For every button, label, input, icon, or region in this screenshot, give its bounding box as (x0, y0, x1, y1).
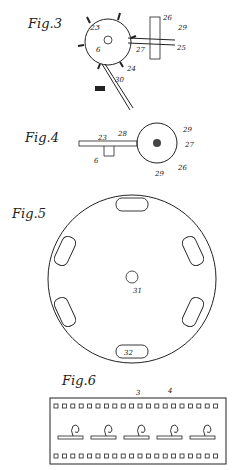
svg-text:24: 24 (126, 65, 136, 73)
fig6-title: Fig.6 (61, 373, 96, 388)
svg-text:27: 27 (184, 141, 194, 149)
svg-text:25: 25 (176, 44, 186, 52)
svg-text:6: 6 (96, 46, 101, 54)
svg-text:6: 6 (94, 157, 99, 165)
svg-text:32: 32 (124, 349, 133, 357)
figure-6: Fig.6 3 4 (50, 373, 226, 464)
fig4-title: Fig.4 (24, 130, 59, 145)
svg-text:23: 23 (89, 23, 100, 32)
svg-text:26: 26 (162, 14, 172, 22)
svg-text:29: 29 (154, 170, 164, 178)
fig3-title: Fig.3 (27, 16, 62, 31)
svg-text:29: 29 (182, 126, 192, 134)
svg-text:27: 27 (135, 46, 145, 54)
svg-text:3: 3 (136, 389, 141, 397)
svg-text:28: 28 (117, 130, 127, 138)
svg-text:29: 29 (177, 24, 187, 32)
figure-4: Fig.4 23 28 29 27 6 26 29 (24, 123, 194, 178)
figure-3: Fig.3 23 26 29 6 27 25 24 30 (27, 13, 187, 110)
svg-text:30: 30 (115, 76, 124, 84)
svg-text:4: 4 (167, 387, 172, 395)
svg-text:31: 31 (133, 287, 142, 295)
svg-text:26: 26 (177, 164, 187, 172)
fig5-title: Fig.5 (11, 206, 46, 221)
patent-drawing: Fig.3 23 26 29 6 27 25 24 30 Fig.4 23 28… (0, 0, 239, 470)
figure-5: Fig.5 31 32 (11, 195, 216, 363)
svg-text:23: 23 (97, 134, 107, 142)
